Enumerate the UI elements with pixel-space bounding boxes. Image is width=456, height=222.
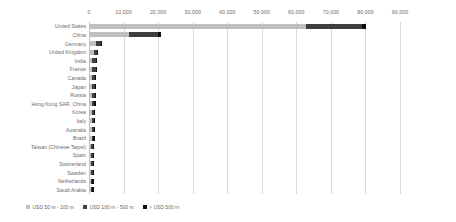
bar-segment-series-3 xyxy=(93,144,94,149)
gridline-60000 xyxy=(296,22,297,194)
bar-segment-series-3 xyxy=(95,93,96,98)
legend-swatch-black-icon xyxy=(143,205,147,209)
legend-item-3[interactable]: > USD 500 m xyxy=(143,204,180,210)
bar-korea xyxy=(90,110,95,115)
bar-saudi-arabia xyxy=(90,187,94,192)
bar-segment-series-1 xyxy=(90,24,306,29)
bar-segment-series-3 xyxy=(94,118,95,123)
legend-label: USD 100 m - 500 m xyxy=(89,204,133,210)
bar-segment-series-3 xyxy=(362,24,366,29)
x-axis-tick-label: 60,000 xyxy=(288,9,304,15)
bar-japan xyxy=(90,84,96,89)
bar-australia xyxy=(90,127,95,132)
bar-segment-series-3 xyxy=(93,170,94,175)
bar-germany xyxy=(90,41,102,46)
category-label: Taiwan (Chinese Taipei) xyxy=(31,144,86,150)
bar-india xyxy=(90,58,97,63)
bar-switzerland xyxy=(90,161,94,166)
bar-hong-kong-sar-china xyxy=(90,101,96,106)
x-axis-tick-label: 40,000 xyxy=(219,9,235,15)
category-label: Brazil xyxy=(73,135,86,141)
bar-italy xyxy=(90,118,95,123)
bar-segment-series-3 xyxy=(96,58,97,63)
bar-segment-series-3 xyxy=(92,179,93,184)
bar-segment-series-3 xyxy=(96,67,97,72)
legend-swatch-dark-icon xyxy=(83,205,87,209)
chart-legend: USD 50 m - 100 mUSD 100 m - 500 m> USD 5… xyxy=(26,204,179,210)
legend-label: > USD 500 m xyxy=(149,204,179,210)
category-label: Australia xyxy=(66,127,86,133)
bar-france xyxy=(90,67,97,72)
bar-segment-series-3 xyxy=(93,136,94,141)
bar-segment-series-3 xyxy=(94,127,95,132)
plot-area: 010,00020,00030,00040,00050,00060,00070,… xyxy=(89,22,400,194)
category-label: France xyxy=(70,66,86,72)
bar-segment-series-2 xyxy=(306,24,362,29)
gridline-20000 xyxy=(158,22,159,194)
category-label: Germany xyxy=(65,41,86,47)
bar-segment-series-3 xyxy=(94,110,95,115)
bar-segment-series-2 xyxy=(129,32,158,37)
x-axis-tick-label: 80,000 xyxy=(357,9,373,15)
gridline-0 xyxy=(89,22,90,194)
gridline-30000 xyxy=(193,22,194,194)
category-label: Japan xyxy=(72,84,86,90)
category-label: Hong Kong SAR, China xyxy=(31,101,86,107)
category-label: Netherlands xyxy=(58,178,86,184)
bar-segment-series-3 xyxy=(95,75,96,80)
legend-swatch-light-icon xyxy=(26,205,30,209)
category-label: Korea xyxy=(72,109,86,115)
category-label: United States xyxy=(55,23,86,29)
x-axis-tick-label: 20,000 xyxy=(150,9,166,15)
gridline-50000 xyxy=(262,22,263,194)
gridline-80000 xyxy=(365,22,366,194)
gridline-70000 xyxy=(331,22,332,194)
bar-segment-series-3 xyxy=(93,153,94,158)
bar-segment-series-3 xyxy=(92,187,93,192)
x-axis-tick-label: 70,000 xyxy=(323,9,339,15)
bar-segment-series-1 xyxy=(90,32,129,37)
category-label: Canada xyxy=(68,75,86,81)
horizontal-stacked-bar-chart: United StatesChinaGermanyUnited KingdomI… xyxy=(0,0,456,222)
bar-taiwan-chinese-taipei xyxy=(90,144,94,149)
category-label: Saudi Arabia xyxy=(57,187,86,193)
bar-netherlands xyxy=(90,179,94,184)
category-label: Russia xyxy=(70,92,86,98)
category-label: Italy xyxy=(76,118,86,124)
x-axis-tick-label: 90,000 xyxy=(392,9,408,15)
bar-spain xyxy=(90,153,94,158)
bar-russia xyxy=(90,93,96,98)
bar-segment-series-3 xyxy=(101,41,102,46)
legend-item-1[interactable]: USD 50 m - 100 m xyxy=(26,204,74,210)
bar-segment-series-3 xyxy=(158,32,161,37)
legend-item-2[interactable]: USD 100 m - 500 m xyxy=(83,204,134,210)
bar-united-kingdom xyxy=(90,50,98,55)
category-label: Switzerland xyxy=(59,161,86,167)
gridline-90000 xyxy=(400,22,401,194)
bar-segment-series-3 xyxy=(95,84,96,89)
legend-label: USD 50 m - 100 m xyxy=(33,204,74,210)
category-axis-labels: United StatesChinaGermanyUnited KingdomI… xyxy=(0,22,86,194)
gridline-10000 xyxy=(124,22,125,194)
bar-united-states xyxy=(90,24,366,29)
bar-segment-series-3 xyxy=(93,161,94,166)
x-axis-tick-label: 10,000 xyxy=(115,9,131,15)
bar-segment-series-3 xyxy=(97,50,98,55)
bar-brazil xyxy=(90,136,95,141)
bar-segment-series-3 xyxy=(94,101,95,106)
category-label: Spain xyxy=(73,152,86,158)
x-axis-tick-label: 30,000 xyxy=(184,9,200,15)
gridline-40000 xyxy=(227,22,228,194)
bar-sweden xyxy=(90,170,94,175)
x-axis-tick-label: 50,000 xyxy=(254,9,270,15)
category-label: Sweden xyxy=(67,170,86,176)
category-label: China xyxy=(72,32,86,38)
bar-china xyxy=(90,32,161,37)
category-label: United Kingdom xyxy=(49,49,86,55)
category-label: India xyxy=(75,58,86,64)
x-axis-tick-label: 0 xyxy=(88,9,91,15)
bar-canada xyxy=(90,75,96,80)
